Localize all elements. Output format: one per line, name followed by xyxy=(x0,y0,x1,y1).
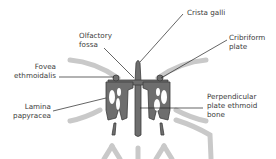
label-fovea-ethmoidalis: Fovea ethmoidalis xyxy=(10,62,56,80)
label-olfactory-fossa: Olfactory fossa xyxy=(79,31,112,49)
ethmoid-bone xyxy=(106,61,170,137)
ethmoid-diagram: Crista galli Olfactory fossa Cribriform … xyxy=(0,0,276,159)
label-perpendicular-plate: Perpendicular plate ethmoid bone xyxy=(207,92,257,119)
label-crista-galli: Crista galli xyxy=(187,8,225,17)
label-lamina-papyracea: Lamina papyracea xyxy=(6,102,51,120)
label-cribriform-plate: Cribriform plate xyxy=(229,33,265,51)
